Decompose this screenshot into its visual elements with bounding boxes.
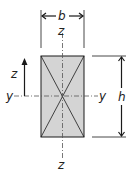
cross-section-diagram: b z z y y z h: [0, 0, 132, 173]
y-axis-label-left: y: [5, 89, 14, 103]
width-label: b: [58, 9, 66, 23]
z-axis-label-top: z: [57, 24, 65, 38]
arrow-up-icon: [22, 58, 28, 96]
y-axis-label-right: y: [98, 89, 107, 103]
z-direction-label: z: [10, 67, 18, 81]
height-label: h: [118, 90, 126, 104]
z-axis-label-bottom: z: [57, 158, 65, 172]
